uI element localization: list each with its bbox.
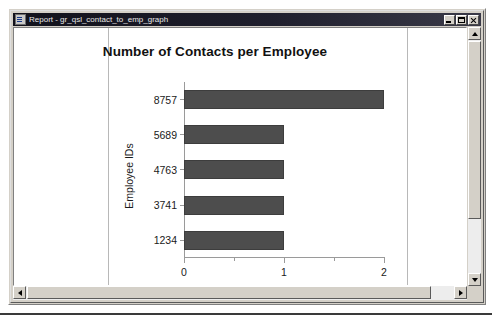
y-axis-title: Employee IDs <box>123 143 135 208</box>
x-tick <box>184 258 185 263</box>
x-tick-label: 2 <box>381 266 387 278</box>
x-tick-minor <box>334 258 335 261</box>
report-window-icon <box>15 14 26 25</box>
y-tick-label: 1234 <box>154 234 177 246</box>
y-tick-label: 4763 <box>154 164 177 176</box>
x-tick-minor <box>234 258 235 261</box>
bar <box>184 90 384 109</box>
maximize-button[interactable] <box>456 15 467 25</box>
desktop-divider <box>0 313 492 315</box>
bar-row: 8757 <box>184 82 384 117</box>
bar-chart: Number of Contacts per Employee Employee… <box>25 28 405 286</box>
plot-area: 8757 5689 4763 <box>184 82 384 258</box>
y-tick-label: 5689 <box>154 129 177 141</box>
bar <box>184 196 284 215</box>
y-tick <box>180 169 184 170</box>
bar-row: 4763 <box>184 152 284 187</box>
scroll-right-icon[interactable] <box>454 286 467 299</box>
vertical-scroll-thumb[interactable] <box>468 41 481 219</box>
x-tick <box>384 258 385 263</box>
close-icon[interactable] <box>468 15 479 25</box>
bar <box>184 231 284 250</box>
y-tick <box>180 205 184 206</box>
y-tick-label: 8757 <box>154 94 177 106</box>
report-canvas: Number of Contacts per Employee Employee… <box>13 27 467 286</box>
y-tick-label: 3741 <box>154 199 177 211</box>
x-tick-label: 1 <box>281 266 287 278</box>
report-page: Number of Contacts per Employee Employee… <box>108 28 408 286</box>
screenshot-root: Report - gr_qsl_contact_to_emp_graph Num… <box>0 0 492 323</box>
report-window: Report - gr_qsl_contact_to_emp_graph Num… <box>8 8 486 305</box>
scrollbar-corner <box>467 286 481 300</box>
bar-row: 5689 <box>184 117 284 152</box>
window-controls <box>444 15 479 25</box>
y-tick <box>180 134 184 135</box>
x-tick <box>284 258 285 263</box>
window-client-area: Number of Contacts per Employee Employee… <box>13 27 481 300</box>
window-inner-frame: Report - gr_qsl_contact_to_emp_graph Num… <box>10 10 484 303</box>
horizontal-scroll-thumb[interactable] <box>27 286 431 299</box>
y-tick <box>180 99 184 100</box>
bar <box>184 160 284 179</box>
bar <box>184 125 284 144</box>
window-titlebar[interactable]: Report - gr_qsl_contact_to_emp_graph <box>13 13 481 26</box>
x-tick-label: 0 <box>181 266 187 278</box>
bar-row: 3741 <box>184 188 284 223</box>
scroll-up-icon[interactable] <box>468 27 481 40</box>
scroll-down-icon[interactable] <box>468 273 481 286</box>
scroll-left-icon[interactable] <box>13 286 26 299</box>
minimize-button[interactable] <box>444 15 455 25</box>
window-title: Report - gr_qsl_contact_to_emp_graph <box>29 15 444 25</box>
y-tick <box>180 240 184 241</box>
horizontal-scrollbar[interactable] <box>13 286 467 300</box>
chart-title: Number of Contacts per Employee <box>25 44 405 59</box>
bar-row: 1234 <box>184 223 284 258</box>
vertical-scrollbar[interactable] <box>467 27 481 286</box>
